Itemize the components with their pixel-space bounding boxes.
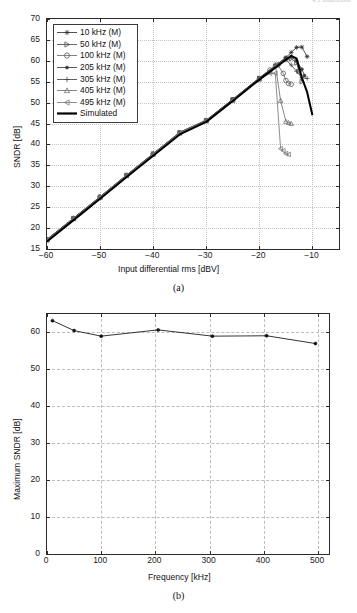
x-tick-label: 100 — [93, 555, 107, 565]
y-tick-label: 0 — [0, 548, 40, 558]
legend-marker-circle-icon — [56, 50, 78, 61]
y-tick-label: 60 — [0, 55, 40, 65]
legend-item-label: 305 kHz (M) — [78, 74, 126, 85]
legend-item[interactable]: 305 kHz (M) — [56, 73, 134, 85]
x-tick-label: −30 — [198, 250, 212, 260]
legend-item-label: 10 kHz (M) — [78, 27, 121, 38]
legend-item[interactable]: Simulated — [56, 108, 134, 120]
y-tick-label: 70 — [0, 13, 40, 23]
figure-caption-b: (b) — [0, 590, 357, 601]
legend-marker-triangle-up-icon — [56, 85, 78, 96]
x-tick-label: −20 — [251, 250, 265, 260]
x-tick-label: 400 — [256, 555, 270, 565]
legend-item[interactable]: 405 kHz (M) — [56, 85, 134, 97]
y-tick-label: 25 — [0, 201, 40, 211]
legend-a: 10 kHz (M)50 kHz (M)100 kHz (M)205 kHz (… — [53, 24, 138, 123]
y-tick-label: 45 — [0, 118, 40, 128]
figure-a: SNDR [dB] Input differential rms [dBV] (… — [0, 10, 357, 285]
figure-b: Maximum SNDR [dB] Frequency [kHz] (b) 01… — [0, 300, 357, 600]
x-tick-label: 300 — [202, 555, 216, 565]
x-tick-label: −10 — [304, 250, 318, 260]
legend-item[interactable]: 205 kHz (M) — [56, 62, 134, 74]
y-tick-label: 10 — [0, 511, 40, 521]
y-tick-label: 20 — [0, 222, 40, 232]
y-tick-label: 15 — [0, 243, 40, 253]
legend-item-label: 50 kHz (M) — [78, 39, 121, 50]
y-tick-label: 35 — [0, 159, 40, 169]
x-axis-label-b: Frequency [kHz] — [148, 572, 211, 582]
legend-marker-plus-icon — [56, 74, 78, 85]
figure-caption-a: (a) — [0, 282, 357, 293]
x-tick-label: −50 — [92, 250, 106, 260]
y-tick-label: 50 — [0, 363, 40, 373]
y-tick-label: 40 — [0, 400, 40, 410]
y-tick-label: 55 — [0, 76, 40, 86]
series-maximum-sndr — [51, 319, 317, 345]
y-axis-label-b: Maximum SNDR [dB] — [12, 418, 22, 500]
legend-item[interactable]: 100 kHz (M) — [56, 50, 134, 62]
y-tick-label: 65 — [0, 34, 40, 44]
y-tick-label: 60 — [0, 326, 40, 336]
legend-item-label: 100 kHz (M) — [78, 50, 126, 61]
x-axis-label-a: Input differential rms [dBV] — [118, 264, 219, 274]
y-tick — [336, 249, 339, 250]
legend-item-label: 405 kHz (M) — [78, 85, 126, 96]
y-tick-label: 50 — [0, 97, 40, 107]
x-tick-label: 200 — [147, 555, 161, 565]
legend-item-label: Simulated — [78, 108, 117, 119]
y-tick-label: 30 — [0, 437, 40, 447]
plot-area-b — [46, 313, 330, 555]
x-tick-label: −60 — [39, 250, 53, 260]
legend-marker-dot-icon — [56, 62, 78, 73]
legend-item[interactable]: 10 kHz (M) — [56, 27, 134, 39]
legend-item-label: 205 kHz (M) — [78, 62, 126, 73]
legend-marker-triangle-left-icon — [56, 97, 78, 108]
x-tick-label: 500 — [310, 555, 324, 565]
legend-marker-triangle-right-icon — [56, 39, 78, 50]
legend-item-label: 495 kHz (M) — [78, 97, 126, 108]
x-tick-label: 0 — [44, 555, 49, 565]
y-tick-label: 20 — [0, 474, 40, 484]
running-header: 4.3 Simulations — [312, 0, 351, 4]
series-layer — [47, 314, 329, 554]
legend-item[interactable]: 50 kHz (M) — [56, 39, 134, 51]
legend-item[interactable]: 495 kHz (M) — [56, 97, 134, 109]
y-tick — [326, 554, 329, 555]
legend-marker-thickline-icon — [56, 108, 78, 119]
legend-marker-star-icon — [56, 27, 78, 38]
figure-page: 4.3 Simulations SNDR [dB] Input differen… — [0, 0, 357, 613]
y-tick-label: 30 — [0, 180, 40, 190]
x-tick-label: −40 — [145, 250, 159, 260]
y-tick-label: 40 — [0, 138, 40, 148]
